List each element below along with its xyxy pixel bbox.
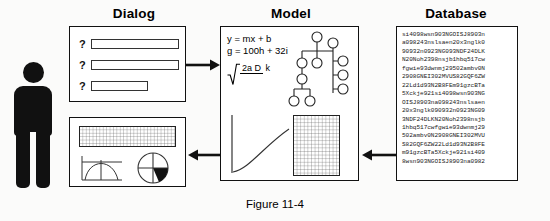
fraction-denominator: k: [266, 63, 271, 73]
equation-line: y = mx + b: [227, 33, 288, 45]
person-leg-right: [36, 128, 50, 188]
square-root-icon: [227, 62, 240, 86]
dialog-input-field[interactable]: [91, 81, 148, 91]
person-leg-gap: [30, 132, 36, 188]
arrow-model-to-report: [186, 148, 221, 162]
dialog-panel[interactable]: ? ? ?: [69, 26, 186, 102]
dialog-input-field[interactable]: [91, 39, 179, 49]
dialog-row-label: ?: [79, 80, 91, 92]
growth-curve-plot: [229, 115, 291, 175]
fraction: 2a D k: [240, 63, 270, 74]
dialog-row: ?: [79, 80, 148, 92]
arrow-dialog-to-model: [186, 58, 222, 72]
dialog-row: ?: [79, 38, 179, 50]
person-head: [23, 62, 44, 83]
figure-container: Dialog Model Database ? ? ? y = mx + b g…: [0, 0, 550, 221]
dialog-row: ?: [79, 59, 179, 71]
arrow-database-to-model: [359, 148, 397, 162]
person-leg-left: [16, 128, 30, 188]
dialog-row-label: ?: [79, 38, 91, 50]
model-equations: y = mx + b g = 100h + 32i 2a D k: [227, 33, 288, 88]
model-panel-title: Model: [246, 6, 336, 21]
node-tree-diagram: [293, 31, 357, 109]
dialog-input-field[interactable]: [91, 60, 179, 70]
database-panel: si4098wsn903NGOISJ8903n a098243nslsaen20…: [396, 26, 518, 181]
person-pictogram-icon: [8, 62, 58, 188]
pie-chart: [136, 151, 172, 185]
model-panel: y = mx + b g = 100h + 32i 2a D k: [220, 26, 359, 181]
dialog-row-label: ?: [79, 59, 91, 71]
results-table-grid: [79, 126, 177, 148]
fraction-numerator: 2a D: [240, 63, 263, 74]
equation-line: g = 100h + 32i: [227, 45, 288, 57]
dialog-panel-title: Dialog: [82, 6, 186, 21]
radical-expression: 2a D k: [227, 62, 288, 88]
arc-chart: [80, 154, 124, 182]
database-panel-title: Database: [400, 6, 512, 21]
figure-caption: Figure 11-4: [0, 198, 550, 210]
data-grid: [293, 115, 341, 177]
report-panel: [69, 117, 186, 187]
database-text-dump: si4098wsn903NGOISJ8903n a098243nslsaen20…: [402, 31, 514, 166]
